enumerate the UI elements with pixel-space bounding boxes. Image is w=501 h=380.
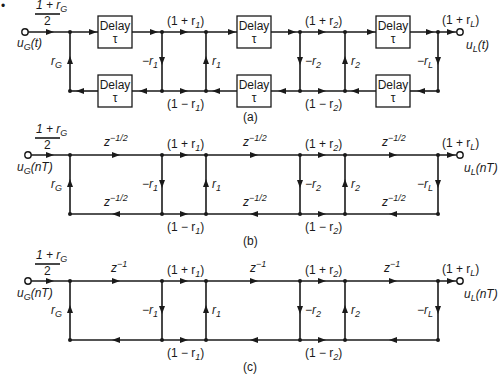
delay-operator-label: z−1/2 <box>103 133 128 149</box>
junction-dots <box>68 279 440 342</box>
output-signal-label: uL(nT) <box>464 161 498 177</box>
reflection-label: −rL <box>417 303 433 319</box>
delay-operator-label: z−1/2 <box>381 133 406 149</box>
transmission-label: (1 − r1) <box>167 346 204 362</box>
reflection-label: −r1 <box>142 303 158 319</box>
gain-numerator: 1 + r <box>36 0 61 12</box>
transmission-label: (1 − r1) <box>167 220 204 236</box>
reflection-label: r2 <box>351 303 360 319</box>
reflection-label: rG <box>51 303 62 319</box>
transmission-label: (1 + r1) <box>167 137 204 153</box>
svg-text:2: 2 <box>44 138 51 152</box>
output-signal-label: uL(nT) <box>464 287 498 303</box>
input-signal-label: uG(nT) <box>17 160 53 176</box>
reflection-label: r2 <box>351 177 360 193</box>
panel-a: 1 + rG 2 uG(t) uL(t) Delay τ <box>17 0 489 124</box>
delay-block: Delay τ <box>98 75 132 107</box>
delay-operator-label: z−1/2 <box>242 193 267 209</box>
transmission-label: (1 − r2) <box>305 220 342 236</box>
output-terminal <box>457 29 463 35</box>
reflection-label: −r1 <box>142 177 158 193</box>
svg-text:τ: τ <box>113 91 118 105</box>
reflection-label: −r2 <box>305 303 321 319</box>
transmission-label: (1 + r2) <box>305 137 342 153</box>
delay-operator-label: z−1 <box>383 259 400 275</box>
svg-text:Delay: Delay <box>239 19 270 33</box>
input-terminal <box>25 152 31 158</box>
input-gain-fraction: 1 + rG 2 <box>35 248 67 278</box>
transmission-label: (1 + r2) <box>305 263 342 279</box>
input-gain-fraction: 1 + rG 2 <box>35 122 67 152</box>
svg-text:Delay: Delay <box>378 78 409 92</box>
transmission-label: (1 − r1) <box>167 97 204 113</box>
reflection-label: −rL <box>417 54 433 70</box>
transmission-label: (1 + rL) <box>442 13 479 29</box>
panel-b: 1 + rG 2 uG(nT) uL(nT) <box>17 122 498 248</box>
svg-text:1 + rG: 1 + rG <box>36 0 67 14</box>
delay-block: Delay τ <box>237 75 271 107</box>
svg-text:1 + rG: 1 + rG <box>36 248 67 264</box>
delay-block: Delay τ <box>98 16 132 48</box>
transmission-label: (1 + r1) <box>167 14 204 30</box>
reflection-label: r1 <box>212 54 221 70</box>
input-terminal <box>22 29 28 35</box>
transmission-label: (1 − r2) <box>305 346 342 362</box>
reflection-label: r1 <box>212 303 221 319</box>
svg-text:1 + rG: 1 + rG <box>36 122 67 138</box>
reflection-label: r2 <box>351 54 360 70</box>
gain-numerator-sub: G <box>60 4 67 14</box>
delay-operator-label: z−1/2 <box>103 193 128 209</box>
flow-arrows <box>46 278 455 343</box>
bullet-marker: • <box>1 0 5 13</box>
reflection-label: −r1 <box>142 54 158 70</box>
transmission-label: (1 + r2) <box>305 14 342 30</box>
svg-text:Delay: Delay <box>378 19 409 33</box>
transmission-label: (1 + rL) <box>442 136 479 152</box>
svg-text:Delay: Delay <box>239 78 270 92</box>
panel-caption: (b) <box>243 234 258 248</box>
delay-operator-label: z−1/2 <box>381 193 406 209</box>
reflection-label: rG <box>51 54 62 70</box>
delay-block: Delay τ <box>376 75 410 107</box>
gain-denominator: 2 <box>44 14 51 28</box>
reflection-label: −r2 <box>305 177 321 193</box>
input-terminal <box>25 278 31 284</box>
delay-operator-label: z−1 <box>249 259 266 275</box>
transmission-label: (1 − r2) <box>305 97 342 113</box>
output-signal-label: uL(t) <box>466 38 489 54</box>
panel-c: 1 + rG 2 uG(nT) uL(nT) <box>17 248 498 374</box>
output-terminal <box>457 278 463 284</box>
transmission-label: (1 + r1) <box>167 263 204 279</box>
delay-operator-label: z−1/2 <box>242 133 267 149</box>
signal-flow-diagram: • 1 + rG 2 uG(t) uL(t) <box>0 0 501 380</box>
reflection-label: rG <box>51 177 62 193</box>
svg-text:Delay: Delay <box>100 19 131 33</box>
svg-text:τ: τ <box>252 32 257 46</box>
svg-text:τ: τ <box>113 32 118 46</box>
reflection-label: −r2 <box>305 54 321 70</box>
delay-block: Delay τ <box>237 16 271 48</box>
svg-text:Delay: Delay <box>100 78 131 92</box>
input-signal-label: uG(t) <box>17 36 42 52</box>
input-signal-label: uG(nT) <box>17 286 53 302</box>
panel-caption: (c) <box>243 360 257 374</box>
svg-text:τ: τ <box>391 91 396 105</box>
panel-caption: (a) <box>243 110 258 124</box>
input-gain-fraction: 1 + rG 2 <box>35 0 67 28</box>
reflection-label: −rL <box>417 177 433 193</box>
reflection-label: r1 <box>212 177 221 193</box>
delay-block: Delay τ <box>376 16 410 48</box>
svg-text:τ: τ <box>391 32 396 46</box>
svg-text:2: 2 <box>44 264 51 278</box>
transmission-label: (1 + rL) <box>442 262 479 278</box>
svg-text:τ: τ <box>252 91 257 105</box>
delay-operator-label: z−1 <box>110 259 127 275</box>
